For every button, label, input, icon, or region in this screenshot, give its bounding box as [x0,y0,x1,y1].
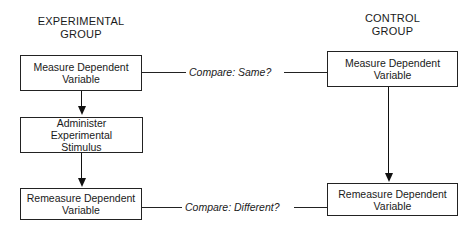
exp-measure-line1: Measure Dependent [33,61,128,73]
compare-different-line-right [294,207,327,208]
control-header-line1: CONTROL [327,12,458,25]
ctrl-measure-line1: Measure Dependent [345,57,440,69]
exp-remeasure-line2: Variable [27,204,136,216]
ctrl-measure-box: Measure Dependent Variable [327,51,458,87]
ctrl-remeasure-line2: Variable [338,200,447,212]
compare-same-line-left [142,72,186,73]
ctrl-remeasure-line1: Remeasure Dependent [338,188,447,200]
control-group-header: CONTROL GROUP [327,12,458,38]
ctrl-arrow-head [385,173,393,182]
experimental-header-line1: EXPERIMENTAL [20,15,142,28]
ctrl-remeasure-box: Remeasure Dependent Variable [327,183,458,216]
exp-arrow-1-head [78,106,86,115]
compare-same-line-right [284,72,327,73]
exp-stimulus-box: Administer Experimental Stimulus [20,117,143,153]
compare-same-label: Compare: Same? [189,66,271,78]
ctrl-measure-line2: Variable [345,69,440,81]
experimental-header-line2: GROUP [20,28,142,41]
exp-arrow-2-shaft [81,153,82,179]
exp-remeasure-line1: Remeasure Dependent [27,192,136,204]
experimental-group-header: EXPERIMENTAL GROUP [20,15,142,41]
compare-different-label: Compare: Different? [185,201,280,213]
exp-remeasure-box: Remeasure Dependent Variable [20,188,142,220]
exp-stimulus-line2: Stimulus [25,141,138,153]
compare-different-line-left [142,207,182,208]
ctrl-arrow-shaft [388,87,389,173]
control-header-line2: GROUP [327,25,458,38]
exp-measure-line2: Variable [33,73,128,85]
exp-arrow-2-head [78,178,86,187]
exp-measure-box: Measure Dependent Variable [20,55,142,91]
exp-stimulus-line1: Administer Experimental [25,117,138,141]
